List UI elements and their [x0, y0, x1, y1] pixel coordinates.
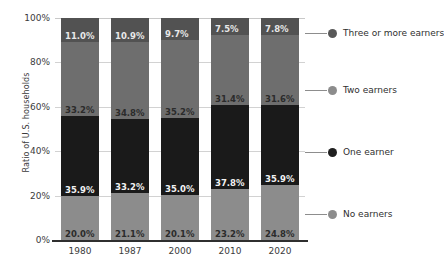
bar-segment[interactable]: 37.8%: [211, 105, 249, 189]
y-tick-label-20: 20%: [20, 191, 50, 201]
legend-leader-line: [305, 33, 327, 34]
legend-item-two-earners[interactable]: Two earners: [305, 84, 397, 96]
bar-1980[interactable]: 20.0%35.9%33.2%11.0%: [61, 18, 99, 240]
bar-segment[interactable]: 31.4%: [211, 35, 249, 105]
bar-segment[interactable]: 11.0%: [61, 18, 99, 42]
segment-value-label: 35.9%: [65, 185, 95, 195]
x-axis-line: [52, 240, 308, 242]
bar-segment[interactable]: 20.1%: [161, 195, 199, 240]
segment-value-label: 37.8%: [215, 178, 245, 188]
bar-segment[interactable]: 33.2%: [111, 119, 149, 193]
bar-1987[interactable]: 21.1%33.2%34.8%10.9%: [111, 18, 149, 240]
y-tick-label-40: 40%: [20, 146, 50, 156]
bar-segment[interactable]: 7.5%: [211, 18, 249, 35]
bar-segment[interactable]: 35.0%: [161, 118, 199, 196]
legend-leader-line: [305, 214, 327, 215]
bar-2000[interactable]: 20.1%35.0%35.2%9.7%: [161, 18, 199, 240]
bar-segment[interactable]: 35.2%: [161, 40, 199, 118]
segment-value-label: 7.5%: [215, 24, 239, 34]
segment-value-label: 24.8%: [265, 229, 295, 239]
legend-leader-line: [305, 152, 327, 153]
bar-segment[interactable]: 10.9%: [111, 18, 149, 42]
segment-value-label: 31.4%: [215, 94, 245, 104]
segment-value-label: 11.0%: [65, 31, 95, 41]
segment-value-label: 35.0%: [165, 184, 195, 194]
bar-segment[interactable]: 34.8%: [111, 42, 149, 119]
bar-2020[interactable]: 24.8%35.9%31.6%7.8%: [261, 18, 299, 240]
bar-2010[interactable]: 23.2%37.8%31.4%7.5%: [211, 18, 249, 240]
legend-marker-dot-icon: [328, 210, 337, 219]
segment-value-label: 31.6%: [265, 94, 295, 104]
segment-value-label: 20.0%: [65, 229, 95, 239]
segment-value-label: 10.9%: [115, 31, 145, 41]
legend-item-one-earner[interactable]: One earner: [305, 146, 394, 158]
bar-segment[interactable]: 31.6%: [261, 35, 299, 105]
segment-value-label: 9.7%: [165, 29, 189, 39]
bar-segment[interactable]: 24.8%: [261, 185, 299, 240]
legend-label: Three or more earners: [343, 28, 444, 38]
segment-value-label: 33.2%: [65, 105, 95, 115]
y-tick-label-100: 100%: [20, 13, 50, 23]
segment-value-label: 35.2%: [165, 107, 195, 117]
bar-segment[interactable]: 21.1%: [111, 193, 149, 240]
bar-segment[interactable]: 20.0%: [61, 196, 99, 240]
y-tick-label-80: 80%: [20, 57, 50, 67]
segment-value-label: 7.8%: [265, 24, 289, 34]
y-tick-label-60: 60%: [20, 102, 50, 112]
y-axis-tick-labels: 0%20%40%60%80%100%: [18, 0, 50, 269]
legend-label: One earner: [343, 147, 394, 157]
legend-marker-dot-icon: [328, 86, 337, 95]
segment-value-label: 35.9%: [265, 174, 295, 184]
legend-marker-dot-icon: [328, 148, 337, 157]
segment-value-label: 20.1%: [165, 229, 195, 239]
bar-segment[interactable]: 33.2%: [61, 42, 99, 116]
bar-segment[interactable]: 35.9%: [261, 105, 299, 185]
bar-segment[interactable]: 35.9%: [61, 116, 99, 196]
segment-value-label: 34.8%: [115, 108, 145, 118]
bar-segment[interactable]: 9.7%: [161, 18, 199, 40]
plot-area: 20.0%35.9%33.2%11.0%21.1%33.2%34.8%10.9%…: [55, 18, 305, 240]
legend-label: Two earners: [343, 85, 397, 95]
x-tick-label-2020: 2020: [250, 246, 310, 256]
y-tick-label-0: 0%: [20, 235, 50, 245]
legend-item-three-or-more-earners[interactable]: Three or more earners: [305, 27, 444, 39]
legend-leader-line: [305, 90, 327, 91]
legend-marker-dot-icon: [328, 29, 337, 38]
segment-value-label: 33.2%: [115, 182, 145, 192]
bar-segment[interactable]: 7.8%: [261, 18, 299, 35]
legend-item-no-earners[interactable]: No earners: [305, 208, 392, 220]
bar-segment[interactable]: 23.2%: [211, 189, 249, 241]
legend-label: No earners: [343, 209, 392, 219]
segment-value-label: 23.2%: [215, 229, 245, 239]
segment-value-label: 21.1%: [115, 229, 145, 239]
